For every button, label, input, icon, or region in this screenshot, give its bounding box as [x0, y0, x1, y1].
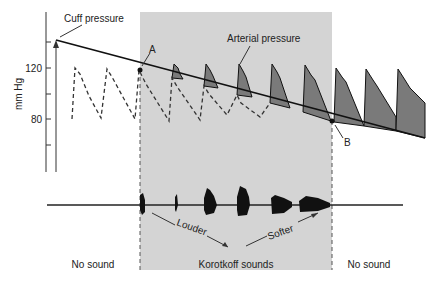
no-sound-left-label: No sound: [72, 259, 115, 270]
point-b-label: B: [344, 137, 351, 148]
cuff-pressure-label: Cuff pressure: [64, 13, 124, 24]
arterial-pressure-label: Arterial pressure: [227, 33, 301, 44]
tick-80: 80: [31, 114, 43, 125]
tick-120: 120: [25, 63, 42, 74]
korotkoff-region: [140, 12, 332, 270]
korotkoff-sounds-label: Korotkoff sounds: [199, 259, 274, 270]
korotkoff-diagram: 120 80 mm Hg A B Cuff pressure Arterial …: [0, 0, 436, 284]
no-sound-right-label: No sound: [348, 259, 391, 270]
point-a-label: A: [149, 44, 156, 55]
y-axis-label: mm Hg: [13, 78, 24, 110]
